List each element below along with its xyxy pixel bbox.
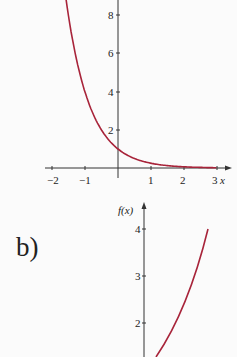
- y-axis-label: f(x): [118, 204, 134, 217]
- y-axis-arrow-icon: [142, 202, 147, 209]
- chart-b: 4 3 2 f(x): [118, 202, 208, 357]
- x-tick-label: −2: [47, 174, 59, 186]
- y-tick-label: 8: [108, 9, 114, 21]
- curve-b: [156, 229, 208, 357]
- y-tick-label: 2: [135, 317, 141, 329]
- y-tick-label: 6: [108, 47, 114, 59]
- charts: −2 −1 1 2 3 x 2 4 6 8 4 3 2 f(x): [0, 0, 237, 357]
- y-tick-label: 4: [135, 223, 141, 235]
- x-axis-arrow-icon: [225, 166, 232, 171]
- x-tick-label: −1: [79, 174, 91, 186]
- y-tick-label: 4: [108, 86, 114, 98]
- chart-a: −2 −1 1 2 3 x 2 4 6 8: [45, 0, 232, 186]
- x-tick-label: 1: [148, 174, 154, 186]
- y-tick-label: 3: [135, 270, 141, 282]
- y-tick-label: 2: [108, 124, 114, 136]
- x-axis-label: x: [219, 174, 225, 186]
- x-tick-label: 3: [212, 174, 218, 186]
- x-tick-label: 2: [180, 174, 186, 186]
- curve-a: [66, 0, 216, 168]
- panel-b-label: b): [16, 232, 39, 263]
